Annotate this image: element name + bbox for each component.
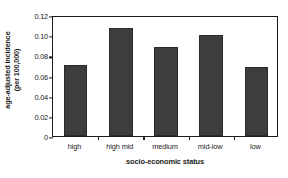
x-axis-tick-mark xyxy=(143,136,144,140)
plot-inner xyxy=(53,17,277,136)
y-axis-tick-label: 0.10 xyxy=(18,32,48,41)
x-axis-tick-mark xyxy=(234,136,235,140)
y-axis-tick-label: 0 xyxy=(18,133,48,142)
y-axis-tick-mark xyxy=(49,57,53,58)
x-axis-tick-mark xyxy=(98,136,99,140)
x-axis-tick-mark xyxy=(189,136,190,140)
x-axis-tick-label: low xyxy=(250,142,261,151)
bar xyxy=(199,35,223,136)
y-axis-tick-mark xyxy=(49,77,53,78)
y-axis-tick-label: 0.12 xyxy=(18,12,48,21)
bar-chart-figure: age-adjusted incidence (per 100,000) 00.… xyxy=(0,0,288,178)
y-axis-tick-labels: 00.020.040.060.080.100.12 xyxy=(18,0,48,178)
plot-area xyxy=(52,16,278,137)
bar xyxy=(64,65,88,136)
y-axis-tick-label: 0.08 xyxy=(18,52,48,61)
y-axis-tick-mark xyxy=(49,16,53,17)
y-axis-tick-mark xyxy=(49,137,53,138)
y-axis-tick-label: 0.02 xyxy=(18,112,48,121)
y-axis-tick-mark xyxy=(49,97,53,98)
x-axis-tick-label: high xyxy=(68,142,82,151)
bar xyxy=(154,47,178,136)
y-axis-tick-label: 0.04 xyxy=(18,92,48,101)
x-axis-tick-label: medium xyxy=(152,142,178,151)
y-axis-tick-label: 0.06 xyxy=(18,72,48,81)
y-axis-tick-mark xyxy=(49,117,53,118)
bar xyxy=(109,28,133,136)
x-axis-tick-label: high mid xyxy=(106,142,133,151)
y-axis-tick-mark xyxy=(49,37,53,38)
x-axis-title: socio-economic status xyxy=(52,157,278,166)
x-axis-tick-label: mid-low xyxy=(198,142,223,151)
bar xyxy=(245,67,269,136)
